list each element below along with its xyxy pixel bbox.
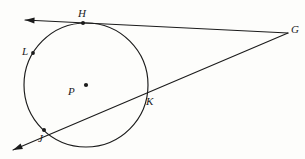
geometry-diagram: H G L P K J	[0, 0, 305, 159]
point-dot-H	[81, 21, 85, 25]
point-label-K: K	[146, 96, 153, 107]
point-dot-L	[31, 51, 35, 55]
point-label-G: G	[291, 24, 299, 35]
secant-line	[13, 33, 288, 150]
lines-group	[13, 20, 288, 150]
point-dot-P	[84, 83, 88, 87]
point-label-P: P	[68, 86, 75, 97]
point-label-H: H	[78, 8, 86, 19]
point-label-J: J	[38, 133, 43, 144]
point-label-L: L	[22, 46, 28, 57]
secant-line-arrowhead	[13, 144, 23, 150]
geometry-canvas	[0, 0, 305, 159]
tangent-line-arrowhead	[25, 17, 35, 23]
point-dots-group	[31, 21, 88, 132]
